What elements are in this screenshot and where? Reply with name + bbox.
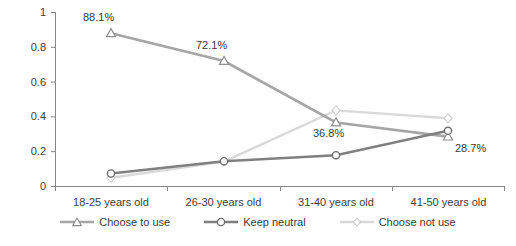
legend-item-choose-to-use[interactable]: Choose to use — [60, 216, 170, 228]
data-label-choose-to-use-0: 88.1% — [83, 12, 114, 23]
data-label-choose-to-use-3: 28.7% — [455, 143, 486, 154]
legend-item-keep-neutral[interactable]: Keep neutral — [204, 216, 305, 228]
data-label-choose-to-use-1: 72.1% — [196, 40, 227, 51]
y-tick-label-08: 0.8 — [6, 42, 46, 53]
series-choose-not-use — [107, 106, 452, 182]
triangle-marker-icon — [60, 216, 94, 228]
x-tick-label-26-30: 26-30 years old — [167, 196, 280, 208]
x-tick-label-31-40: 31-40 years old — [280, 196, 392, 208]
y-axis-ticks — [51, 13, 55, 187]
y-tick-label-04: 0.4 — [6, 111, 46, 122]
y-tick-label-1: 1 — [6, 7, 46, 18]
x-tick-label-41-50: 41-50 years old — [392, 196, 505, 208]
legend-label-keep-neutral: Keep neutral — [243, 216, 305, 228]
series-keep-neutral — [107, 127, 451, 177]
series-choose-to-use — [106, 29, 452, 140]
circle-marker-icon — [204, 216, 238, 228]
y-tick-label-0: 0 — [6, 181, 46, 192]
line-chart: 1 0.8 0.6 0.4 0.2 0 88.1% 72.1% 36.8% 28… — [0, 0, 516, 246]
y-tick-label-06: 0.6 — [6, 77, 46, 88]
data-label-choose-to-use-2: 36.8% — [313, 128, 344, 139]
plot-area: 1 0.8 0.6 0.4 0.2 0 88.1% 72.1% 36.8% 28… — [0, 0, 516, 212]
x-tick-label-18-25: 18-25 years old — [55, 196, 167, 208]
chart-canvas — [0, 0, 516, 212]
legend-label-choose-not-use: Choose not use — [379, 216, 456, 228]
y-tick-label-02: 0.2 — [6, 146, 46, 157]
legend-label-choose-to-use: Choose to use — [99, 216, 170, 228]
diamond-marker-icon — [340, 216, 374, 228]
axis-lines — [55, 12, 505, 187]
chart-legend: Choose to use Keep neutral Choose not us… — [0, 216, 516, 246]
legend-item-choose-not-use[interactable]: Choose not use — [340, 216, 456, 228]
